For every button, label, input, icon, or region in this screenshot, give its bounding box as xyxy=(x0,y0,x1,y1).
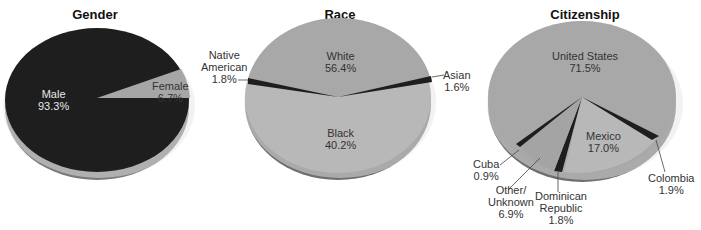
label-mexico: Mexico 17.0% xyxy=(586,130,621,154)
label-united-states: United States 71.5% xyxy=(552,50,618,74)
label-black: Black 40.2% xyxy=(325,127,356,151)
race-chart: Race White 56.4% Black 40.2% Native Amer… xyxy=(200,0,460,230)
label-other-unknown: Other/ Unknown 6.9% xyxy=(488,184,534,220)
label-native-american: Native American 1.8% xyxy=(201,49,247,85)
label-dominican-republic: Dominican Republic 1.8% xyxy=(535,190,587,226)
label-colombia: Colombia 1.9% xyxy=(648,172,694,196)
citizenship-chart: Citizenship United States 71.5% Mexico 1… xyxy=(440,0,701,230)
race-pie xyxy=(200,0,460,230)
label-male: Male 93.3% xyxy=(38,88,69,112)
label-white: White 56.4% xyxy=(325,50,356,74)
label-female: Female 6.7% xyxy=(152,80,189,104)
label-cuba: Cuba 0.9% xyxy=(473,158,499,182)
